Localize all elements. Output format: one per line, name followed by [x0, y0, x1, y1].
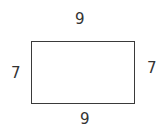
- rectangle: [31, 41, 135, 104]
- top-side-label: 9: [75, 12, 85, 27]
- left-side-label: 7: [11, 66, 21, 81]
- bottom-side-label: 9: [80, 112, 90, 127]
- right-side-label: 7: [147, 61, 157, 76]
